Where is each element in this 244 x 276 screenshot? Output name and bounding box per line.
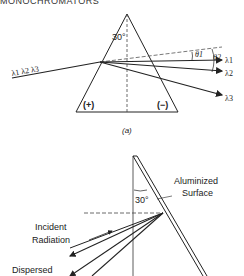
angle-30-label: 30° [135, 195, 149, 205]
dispersed-ray-3 [92, 213, 163, 276]
apex-angle-label: 30° [112, 32, 126, 42]
theta1-label: θ1 [195, 50, 203, 59]
incident-ray [70, 213, 163, 248]
dispersed-ray-2 [70, 213, 163, 276]
dispersed-label: Dispersed [12, 265, 53, 275]
surface-label: Surface [182, 188, 213, 198]
aluminized-surface-inner [133, 156, 203, 276]
dispersed-ray-1 [70, 213, 163, 256]
theta1-arc [192, 52, 193, 60]
figure-a-caption: (a) [122, 126, 132, 135]
lambda2-label: λ2 [225, 69, 233, 78]
radiation-label: Radiation [32, 235, 70, 245]
incident-label: Incident [35, 222, 67, 232]
aluminized-label: Aluminized [174, 176, 218, 186]
surface-leader-line [157, 196, 172, 199]
littrow-figure-b: 30° Aluminized Surface Incident Radiatio… [12, 156, 218, 276]
lambda1-label: λ1 [225, 56, 233, 65]
diagram-canvas: 30° λ1 λ2 λ3 λ1 λ2 λ3 θ1 θ2 (+) (−) (a) … [0, 0, 244, 276]
angle-arc [134, 190, 147, 191]
aluminized-surface-outer [137, 156, 207, 276]
lambda3-label: λ3 [225, 94, 233, 103]
ray-lambda1 [100, 60, 222, 62]
negative-sign-label: (−) [157, 100, 168, 110]
theta2-label: θ2 [213, 53, 221, 62]
prism-figure-a: 30° λ1 λ2 λ3 λ1 λ2 λ3 θ1 θ2 (+) (−) (a) [11, 14, 233, 135]
positive-sign-label: (+) [83, 100, 94, 110]
